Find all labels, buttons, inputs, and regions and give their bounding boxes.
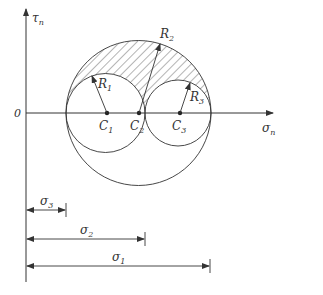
origin-label: 0 bbox=[14, 107, 21, 120]
mohr-circle-diagram: τn σn 0 C1 C2 C3 R1 R2 R3 σ3 σ2 σ1 bbox=[0, 0, 323, 295]
